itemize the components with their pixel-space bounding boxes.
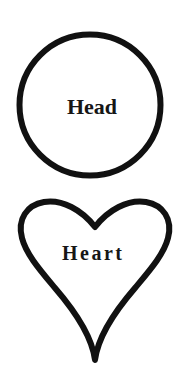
diagram-canvas: Head Heart (0, 0, 184, 391)
head-label: Head (0, 96, 184, 118)
heart-label: Heart (0, 243, 184, 263)
heart-outline-icon (21, 202, 170, 360)
heart-outline-path (21, 202, 170, 360)
shapes-layer (0, 0, 184, 391)
